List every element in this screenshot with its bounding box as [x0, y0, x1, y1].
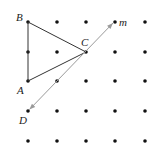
segment-bc [28, 22, 86, 52]
label-m: m [119, 16, 127, 28]
grid-dot [143, 109, 147, 113]
grid-dot [143, 139, 147, 143]
grid-dot [143, 20, 147, 24]
grid-dot [113, 79, 117, 83]
grid-dot [113, 20, 117, 24]
label-c: C [81, 36, 89, 48]
grid-dot [143, 50, 147, 54]
grid-dot [113, 50, 117, 54]
grid-dot [143, 79, 147, 83]
grid-dot [26, 109, 30, 113]
grid-dot [55, 20, 59, 24]
grid-dot [113, 139, 117, 143]
segment-ca [28, 52, 86, 81]
grid-dot [84, 20, 88, 24]
grid-dot [26, 139, 30, 143]
grid-dot [55, 50, 59, 54]
grid-dot [84, 139, 88, 143]
grid-dot [55, 109, 59, 113]
label-b: B [16, 11, 23, 23]
label-d: D [18, 114, 27, 126]
grid-dot [84, 79, 88, 83]
grid-dot [113, 109, 117, 113]
label-a: A [16, 84, 24, 96]
grid-dot [84, 109, 88, 113]
grid-dot [55, 139, 59, 143]
dot-grid-diagram: B C A D m [0, 0, 162, 157]
line-m-segment [29, 23, 113, 110]
line-m [29, 23, 113, 110]
